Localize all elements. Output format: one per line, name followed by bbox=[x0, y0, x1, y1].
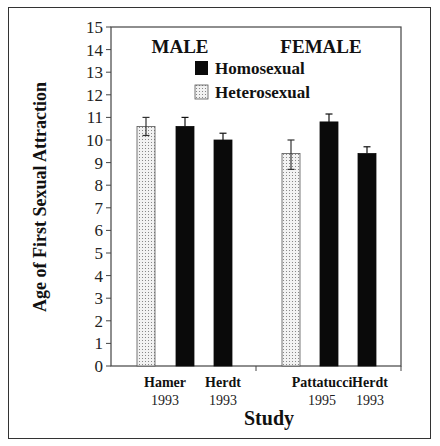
bar-homosexual bbox=[214, 133, 232, 366]
legend-label-homosexual: Homosexual bbox=[215, 59, 305, 78]
bar-homosexual bbox=[320, 114, 338, 366]
bar-heterosexual bbox=[282, 140, 300, 366]
bar-homosexual bbox=[358, 147, 376, 366]
y-tick-label: 10 bbox=[86, 131, 103, 150]
x-axis-title: Study bbox=[244, 407, 294, 430]
y-tick-label: 3 bbox=[95, 289, 104, 308]
bars bbox=[137, 114, 376, 366]
legend-swatch-homosexual bbox=[195, 61, 208, 75]
y-tick-label: 2 bbox=[95, 312, 104, 331]
bar-heterosexual bbox=[137, 117, 155, 366]
legend-swatch-heterosexual bbox=[195, 85, 208, 99]
bar-homosexual bbox=[176, 117, 194, 366]
x-category-labels: Hamer1993Herdt1993Pattatucci1995Herdt199… bbox=[144, 375, 388, 408]
y-tick-label: 8 bbox=[95, 176, 104, 195]
y-tick-label: 4 bbox=[95, 267, 104, 286]
x-category-label: Pattatucci bbox=[292, 375, 353, 390]
y-tick-label: 15 bbox=[86, 18, 103, 37]
y-tick-label: 12 bbox=[86, 86, 103, 105]
y-tick-label: 13 bbox=[86, 63, 103, 82]
y-tick-label: 5 bbox=[95, 244, 104, 263]
y-tick-label: 1 bbox=[95, 334, 104, 353]
y-tick-label: 0 bbox=[95, 357, 104, 376]
x-category-year: 1993 bbox=[151, 393, 179, 408]
group-label-male: MALE bbox=[152, 36, 209, 57]
x-category-year: 1995 bbox=[308, 393, 336, 408]
y-tick-label: 11 bbox=[87, 108, 103, 127]
y-tick-label: 6 bbox=[95, 221, 104, 240]
x-category-label: Herdt bbox=[205, 375, 241, 390]
y-tick-label: 9 bbox=[95, 154, 104, 173]
x-category-year: 1993 bbox=[209, 393, 237, 408]
y-tick-label: 7 bbox=[95, 199, 104, 218]
group-label-female: FEMALE bbox=[280, 36, 361, 57]
x-category-label: Herdt bbox=[352, 375, 388, 390]
x-category-label: Hamer bbox=[144, 375, 186, 390]
y-axis-title: Age of First Sexual Attraction bbox=[30, 82, 50, 312]
bar-chart: 0123456789101112131415 MALE FEMALE Homos… bbox=[0, 0, 440, 446]
legend-label-heterosexual: Heterosexual bbox=[215, 83, 310, 102]
y-axis: 0123456789101112131415 bbox=[86, 18, 111, 376]
y-tick-label: 14 bbox=[86, 41, 104, 60]
x-category-year: 1993 bbox=[356, 393, 384, 408]
